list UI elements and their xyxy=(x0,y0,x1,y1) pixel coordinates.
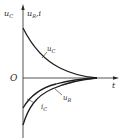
x-axis-arrow-icon xyxy=(113,76,119,79)
curve-u-c xyxy=(23,28,97,78)
curve-i-c xyxy=(23,78,97,125)
u-r-leader xyxy=(55,89,62,95)
curve-label-i-c: iC xyxy=(41,103,47,112)
rc-transient-diagram: uC uR,i O t uC uR iC xyxy=(0,0,128,140)
y-axis-arrow-icon xyxy=(21,4,24,10)
y-label-u-r-i: uR,i xyxy=(27,9,41,19)
origin-label: O xyxy=(10,73,18,83)
x-axis-label: t xyxy=(112,81,116,90)
curve-label-u-c: uC xyxy=(47,45,56,54)
y-label-u-c: uC xyxy=(4,9,13,19)
curve-label-u-r: uR xyxy=(63,94,72,103)
